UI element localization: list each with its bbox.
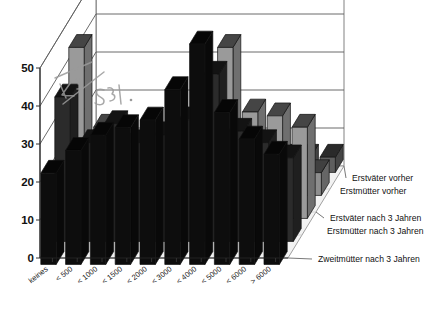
- x-tick-label: < 1500: [100, 264, 124, 286]
- legend-label: Erstmütter vorher: [340, 186, 407, 196]
- x-tick-label: < 3000: [150, 264, 174, 286]
- y-axis: 01020304050: [21, 62, 40, 264]
- legend-label: Zweitmütter nach 3 Jahren: [318, 254, 420, 264]
- x-tick-label: keines: [27, 264, 50, 285]
- x-tick-label: < 6000: [224, 264, 248, 286]
- legend-leader-line: [316, 212, 324, 218]
- x-tick-label: > 6000: [249, 264, 273, 286]
- x-tick-label: < 5000: [199, 264, 223, 286]
- legend-label: Erstmütter nach 3 Jahren: [327, 226, 424, 236]
- x-tick-label: < 4000: [174, 264, 198, 286]
- bar: [214, 100, 237, 265]
- bar-side-face: [230, 100, 238, 265]
- chart-3d-bar: 01020304050keines< 500< 1000< 1500< 2000…: [0, 0, 441, 309]
- bar-side-face: [56, 160, 64, 264]
- bar-front-face: [41, 173, 56, 264]
- legend-leader-line: [344, 166, 346, 178]
- bar-side-face: [255, 126, 263, 264]
- legend-label: Erstväter nach 3 Jahren: [330, 213, 421, 223]
- bar-front-face: [264, 154, 279, 264]
- bar-front-face: [214, 112, 229, 264]
- x-tick-label: < 2000: [125, 264, 149, 286]
- y-tick-label: 50: [21, 62, 34, 74]
- bar: [140, 107, 163, 264]
- y-tick-label: 10: [21, 214, 34, 226]
- bar: [66, 138, 89, 265]
- bar-side-face: [293, 145, 301, 241]
- bar-side-face: [307, 114, 315, 218]
- bar: [41, 160, 64, 264]
- bar-front-face: [90, 135, 105, 264]
- bar: [190, 31, 213, 264]
- bar-side-face: [180, 77, 188, 265]
- bar-side-face: [279, 141, 287, 264]
- y-tick-label: 0: [28, 252, 34, 264]
- chart-canvas: 01020304050keines< 500< 1000< 1500< 2000…: [0, 0, 441, 309]
- bar-side-face: [205, 31, 213, 264]
- bar-side-face: [131, 115, 139, 265]
- y-tick-label: 20: [21, 176, 34, 188]
- bar: [115, 115, 138, 265]
- bar: [90, 122, 113, 264]
- handwritten-dot: [130, 99, 133, 102]
- bar-front-face: [66, 150, 81, 264]
- bar-front-face: [165, 90, 180, 265]
- y-tick-label: 40: [21, 100, 34, 112]
- legend-label: Erstväter vorher: [352, 173, 413, 183]
- bar-front-face: [140, 120, 155, 264]
- bar-front-face: [239, 139, 254, 264]
- x-tick-label: < 500: [54, 264, 75, 283]
- bar: [264, 141, 287, 264]
- bar-front-face: [190, 44, 205, 264]
- y-tick-label: 30: [21, 138, 34, 150]
- legend-leader-line: [288, 258, 312, 259]
- bar-side-face: [81, 138, 89, 265]
- bar: [239, 126, 262, 264]
- bar-side-face: [106, 122, 114, 264]
- x-tick-label: < 1000: [75, 264, 99, 286]
- bar: [165, 77, 188, 265]
- bar-front-face: [115, 128, 130, 265]
- bar-side-face: [155, 107, 163, 264]
